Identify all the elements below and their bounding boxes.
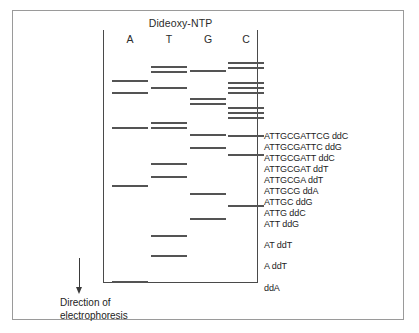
arrow-head — [76, 287, 82, 294]
direction-caption-line-2: electrophoresis — [60, 310, 128, 323]
gel-title: Dideoxy-NTP — [103, 17, 258, 29]
band-a-2 — [112, 92, 148, 94]
band-a-1 — [112, 80, 148, 82]
down-arrow-icon — [79, 258, 81, 294]
band-t-9 — [151, 255, 187, 257]
band-c-9 — [228, 135, 264, 137]
band-t-3 — [151, 87, 187, 89]
band-t-4 — [151, 122, 187, 124]
band-c-3 — [228, 82, 264, 84]
band-t-8 — [151, 235, 187, 237]
band-g-7 — [190, 218, 226, 220]
direction-caption: Direction of electrophoresis — [60, 297, 128, 322]
band-g-3 — [190, 103, 226, 105]
band-c-6 — [228, 107, 264, 109]
band-t-1 — [151, 66, 187, 68]
band-c-7 — [228, 112, 264, 114]
sequence-label: ATTGCG ddA — [264, 186, 318, 196]
band-g-2 — [190, 98, 226, 100]
band-t-6 — [151, 163, 187, 165]
band-g-4 — [190, 134, 226, 136]
sequencing-gel-figure: Dideoxy-NTP ATGC ATTGCGATTCG ddCATTGCGAT… — [0, 0, 419, 333]
band-t-5 — [151, 127, 187, 129]
sequence-label: ATTGCGATT ddC — [264, 153, 335, 163]
sequence-label: ATTGCGA ddT — [264, 175, 323, 185]
band-c-5 — [228, 92, 264, 94]
band-a-3 — [112, 127, 148, 129]
band-c-1 — [228, 62, 264, 64]
sequence-label: ATTG ddC — [264, 208, 306, 218]
arrow-shaft — [79, 258, 80, 289]
band-t-7 — [151, 176, 187, 178]
sequence-label: ddA — [264, 283, 280, 293]
band-c-4 — [228, 87, 264, 89]
band-g-5 — [190, 147, 226, 149]
band-a-4 — [112, 185, 148, 187]
band-g-1 — [190, 70, 226, 72]
sequence-label: AT ddT — [264, 240, 292, 250]
band-c-11 — [228, 205, 264, 207]
band-c-8 — [228, 117, 264, 119]
sequence-label: ATTGCGATTC ddG — [264, 142, 342, 152]
band-g-6 — [190, 193, 226, 195]
direction-caption-line-1: Direction of — [60, 297, 128, 310]
sequence-label: ATTGCGAT ddT — [264, 164, 328, 174]
sequence-label: ATT ddG — [264, 219, 299, 229]
band-t-2 — [151, 71, 187, 73]
sequence-label: A ddT — [264, 261, 287, 271]
sequence-label: ATTGC ddG — [264, 197, 312, 207]
band-a-5 — [112, 281, 148, 283]
sequence-label: ATTGCGATTCG ddC — [264, 131, 348, 141]
band-c-10 — [228, 154, 264, 156]
band-c-2 — [228, 67, 264, 69]
